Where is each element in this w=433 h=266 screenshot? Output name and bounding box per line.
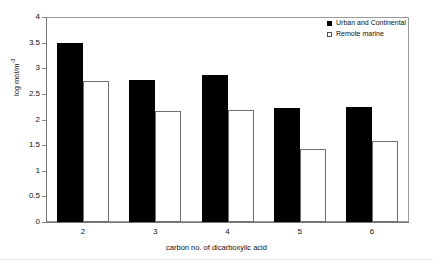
- x-axis-line: [46, 222, 409, 223]
- y-axis-tick: [42, 120, 46, 121]
- y-axis-tick-label: 0.5: [10, 192, 40, 200]
- legend-item-urban-and-continental: Urban and Continental: [327, 19, 406, 27]
- x-axis-title: carbon no. of dicarboxylic acid: [0, 243, 433, 252]
- y-axis-tick-label: 0: [10, 218, 40, 226]
- x-axis-tick-label: 3: [135, 227, 175, 236]
- x-axis-tick-label: 4: [208, 227, 248, 236]
- y-axis-tick-label: 1: [10, 167, 40, 175]
- y-axis-tick: [42, 196, 46, 197]
- chart-legend: Urban and Continental Remote marine: [327, 19, 406, 41]
- chart-screenshot: 43.532.521.510.50 log mol/m-3 23456 carb…: [0, 0, 433, 266]
- x-axis-tick-label: 2: [63, 227, 103, 236]
- y-axis-tick: [42, 68, 46, 69]
- bar-remote-marine-5: [300, 149, 326, 222]
- x-axis-tick-label: 6: [352, 227, 392, 236]
- y-axis-title: log mol/m-3: [9, 59, 21, 96]
- bar-remote-marine-6: [372, 141, 398, 222]
- y-axis-tick-label: 1.5: [10, 141, 40, 149]
- legend-item-remote-marine: Remote marine: [327, 30, 406, 38]
- page-edge-line: [0, 259, 433, 260]
- bars-layer: [47, 17, 408, 222]
- legend-label: Remote marine: [336, 30, 384, 38]
- filled-square-icon: [327, 21, 332, 26]
- bar-remote-marine-3: [155, 111, 181, 222]
- bar-urban-and-continental-5: [274, 108, 300, 222]
- bar-urban-and-continental-6: [346, 107, 372, 222]
- bar-remote-marine-2: [83, 81, 109, 222]
- bar-remote-marine-4: [228, 110, 254, 222]
- y-axis-tick: [42, 145, 46, 146]
- y-axis-tick: [42, 171, 46, 172]
- y-axis-tick-label: 4: [10, 13, 40, 21]
- y-axis-title-text: log mol/m: [12, 63, 21, 96]
- y-axis-tick-label: 2: [10, 116, 40, 124]
- bar-urban-and-continental-4: [202, 75, 228, 222]
- y-axis-title-superscript: -3: [10, 59, 16, 64]
- y-axis-tick: [42, 17, 46, 18]
- open-square-icon: [327, 32, 332, 37]
- bar-chart: 43.532.521.510.50 log mol/m-3 23456 carb…: [0, 0, 433, 266]
- bar-urban-and-continental-3: [129, 80, 155, 222]
- legend-label: Urban and Continental: [336, 19, 406, 27]
- x-axis-tick-label: 5: [280, 227, 320, 236]
- y-axis-tick: [42, 43, 46, 44]
- y-axis-tick: [42, 222, 46, 223]
- bar-urban-and-continental-2: [57, 43, 83, 222]
- y-axis-tick-label: 3.5: [10, 39, 40, 47]
- y-axis-tick: [42, 94, 46, 95]
